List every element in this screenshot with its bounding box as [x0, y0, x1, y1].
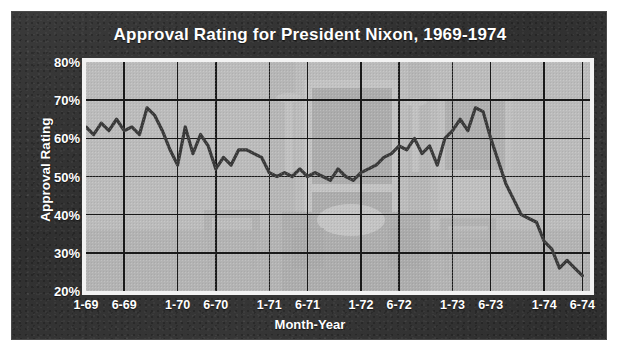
plot-frame [82, 58, 594, 295]
plot-area [86, 62, 590, 291]
y-tick-label: 60% [34, 132, 80, 145]
plot-svg [86, 62, 590, 291]
x-tick-label: 6-74 [560, 298, 604, 312]
x-axis-tick-labels: 1-696-691-706-701-716-711-726-721-736-73… [85, 298, 585, 318]
y-tick-label: 80% [34, 56, 80, 69]
y-tick-label: 50% [34, 171, 80, 184]
approval-rating-chart-figure: Approval Rating for President Nixon, 196… [0, 0, 618, 351]
x-tick-label: 6-71 [285, 298, 329, 312]
y-axis-tick-labels: 80%70%60%50%40%30%20% [32, 12, 80, 341]
chart-card: Approval Rating for President Nixon, 196… [11, 11, 607, 340]
y-tick-label: 40% [34, 209, 80, 222]
x-tick-label: 6-73 [469, 298, 513, 312]
chart-title: Approval Rating for President Nixon, 196… [12, 25, 608, 45]
x-tick-label: 6-72 [377, 298, 421, 312]
y-tick-label: 30% [34, 247, 80, 260]
x-tick-label: 6-70 [194, 298, 238, 312]
y-tick-label: 70% [34, 94, 80, 107]
y-tick-label: 20% [34, 285, 80, 298]
x-axis-title: Month-Year [12, 317, 608, 332]
x-tick-label: 6-69 [102, 298, 146, 312]
